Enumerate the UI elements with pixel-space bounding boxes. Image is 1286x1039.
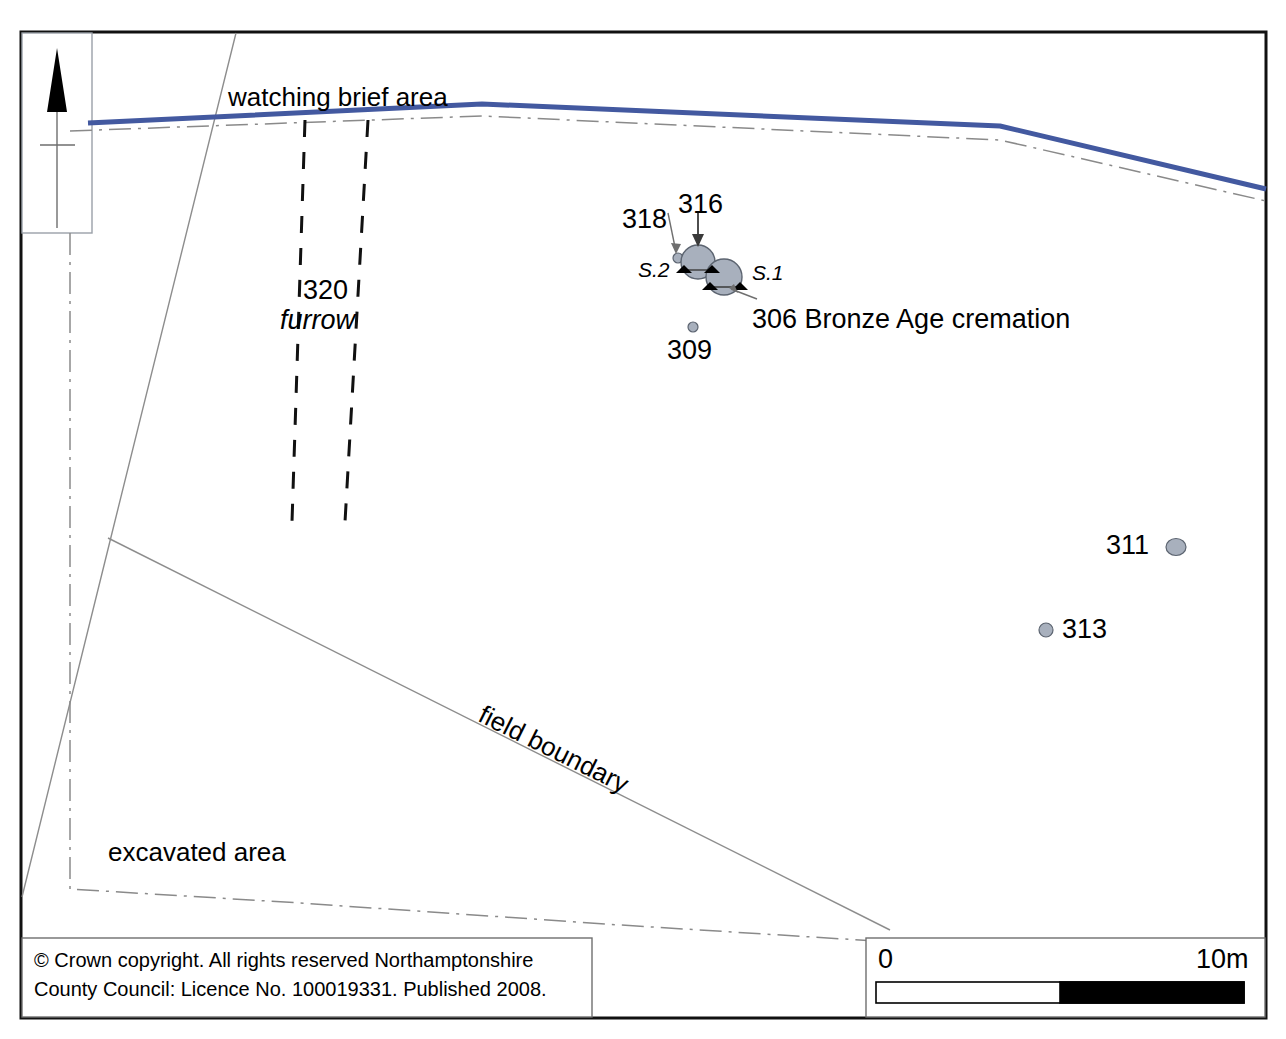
watching-brief-area-label: watching brief area bbox=[228, 83, 448, 112]
scale-bar-start-label: 0 bbox=[878, 944, 893, 974]
feature-label-316: 316 bbox=[678, 189, 723, 219]
feature-label-318: 318 bbox=[622, 204, 667, 234]
excavated-area-label: excavated area bbox=[108, 838, 286, 867]
copyright-line-1: © Crown copyright. All rights reserved N… bbox=[34, 946, 533, 974]
feature-label-313: 313 bbox=[1062, 614, 1107, 644]
plan-background bbox=[0, 0, 1286, 1039]
scale-bar-end-label: 10m bbox=[1196, 944, 1249, 974]
section-label-s1: S.1 bbox=[752, 261, 784, 285]
feature-label-309: 309 bbox=[667, 335, 712, 365]
furrow-label: furrow bbox=[280, 305, 355, 335]
feature-309 bbox=[688, 322, 698, 332]
feature-311 bbox=[1166, 539, 1186, 556]
feature-label-311: 311 bbox=[1106, 530, 1149, 560]
feature-313 bbox=[1039, 623, 1053, 637]
feature-label-306: 306 Bronze Age cremation bbox=[752, 304, 1070, 334]
site-plan-canvas bbox=[0, 0, 1286, 1039]
furrow-number-label: 320 bbox=[303, 275, 348, 305]
scale-bar-segment-5-10m bbox=[1060, 982, 1244, 1003]
copyright-line-2: County Council: Licence No. 100019331. P… bbox=[34, 975, 547, 1003]
section-label-s2: S.2 bbox=[638, 258, 670, 282]
north-arrow bbox=[22, 33, 92, 233]
